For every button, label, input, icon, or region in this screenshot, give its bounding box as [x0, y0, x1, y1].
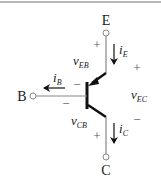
vcb-plus-sign: +	[93, 128, 100, 143]
veb-plus-sign: +	[93, 37, 100, 52]
base-label: B	[17, 89, 26, 104]
emitter-arrow-icon	[88, 73, 106, 86]
collector-label: C	[101, 163, 110, 178]
vec-plus-sign: +	[133, 60, 140, 75]
collector-terminal	[103, 117, 109, 160]
vcb-label: vCB	[71, 113, 87, 130]
collector-lead	[88, 105, 106, 117]
vec-label: vEC	[131, 87, 148, 104]
vec-minus-sign: −	[133, 112, 140, 127]
emitter-terminal	[103, 30, 109, 73]
emitter-label: E	[102, 13, 111, 28]
base-current-label: iB	[53, 70, 62, 87]
pnp-transistor-diagram: E B C iE iB iC + vEB − − vCB + + vEC −	[0, 0, 161, 184]
emitter-current-label: iE	[119, 42, 128, 59]
base-terminal	[30, 93, 87, 99]
vcb-minus-sign: −	[62, 96, 69, 111]
collector-current-label: iC	[119, 121, 129, 138]
veb-minus-sign: −	[73, 77, 80, 92]
veb-label: vEB	[73, 53, 89, 70]
